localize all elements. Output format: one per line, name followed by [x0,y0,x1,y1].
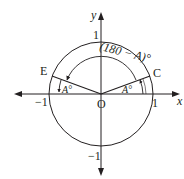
arc-a-at-c-outer [143,79,146,94]
x-axis-label: x [176,94,183,108]
point-e-label: E [40,64,47,78]
arc-a-at-e [59,80,61,92]
y-axis-down-arrow-icon [98,168,104,176]
x-axis-left-arrow-icon [14,91,22,97]
y-tick-neg: −1 [88,149,101,163]
angle-a-at-c-label: A° [121,84,132,95]
angle-180-minus-a-label: (180 − A)° [98,39,152,65]
angle-a-at-e-label: A° [61,84,72,95]
origin-label: O [97,97,106,111]
y-axis-up-arrow-icon [98,12,104,20]
point-c-label: C [153,66,161,80]
arc-a-at-c [140,80,143,94]
x-tick-pos: 1 [152,96,158,110]
unit-circle-diagram: y x 1 −1 −1 1 O C E (180 − A)° A° A° [0,0,184,179]
y-axis-label: y [90,8,97,22]
y-tick-pos: 1 [93,28,99,42]
x-tick-neg: −1 [35,95,48,109]
